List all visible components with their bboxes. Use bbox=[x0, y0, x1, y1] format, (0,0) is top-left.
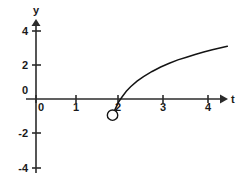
chart-canvas: 0 1 2 3 4 4 2 0 -2 -4 t y bbox=[0, 0, 242, 183]
y-axis-label: y bbox=[33, 4, 40, 16]
x-tick-label-4: 4 bbox=[205, 101, 212, 113]
x-tick-label-3: 3 bbox=[160, 101, 166, 113]
y-axis-arrow-icon bbox=[32, 19, 41, 26]
x-tick-label-0: 0 bbox=[38, 101, 44, 113]
x-tick-label-1: 1 bbox=[73, 101, 79, 113]
x-axis-label: t bbox=[231, 93, 235, 105]
y-tick-label-neg4: -4 bbox=[18, 162, 29, 174]
open-circle-endpoint-marker bbox=[107, 110, 117, 120]
y-tick-label-4: 4 bbox=[22, 25, 29, 37]
y-tick-label-neg2: -2 bbox=[18, 127, 28, 139]
x-axis-arrow-icon bbox=[220, 95, 228, 104]
chart-figure: 0 1 2 3 4 4 2 0 -2 -4 t y bbox=[0, 0, 242, 183]
y-tick-label-2: 2 bbox=[22, 59, 28, 71]
axes-group bbox=[26, 19, 228, 173]
y-tick-label-0: 0 bbox=[22, 84, 28, 96]
